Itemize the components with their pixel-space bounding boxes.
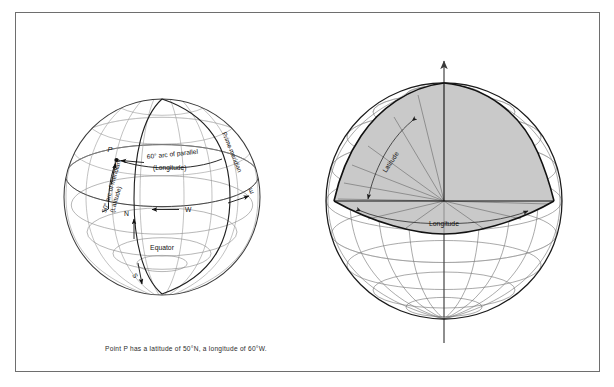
figure-frame: P 60° arc of parallel (Longitude) 50° ar… [15, 12, 600, 372]
figure-caption: Point P has a latitude of 50°N, a longit… [56, 345, 316, 352]
longitude-label: Longitude [429, 220, 459, 228]
right-globe-svg: Latitude Longitude [16, 13, 601, 373]
figure-root: P 60° arc of parallel (Longitude) 50° ar… [0, 0, 614, 387]
